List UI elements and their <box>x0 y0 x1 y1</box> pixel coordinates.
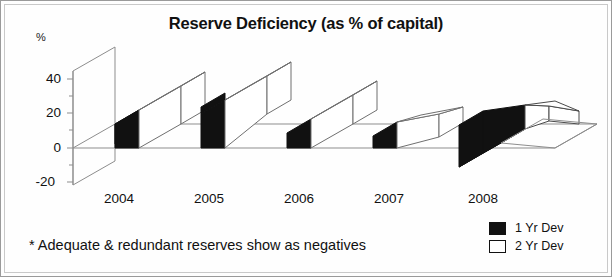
bar-2006-2yr-dev <box>311 81 377 148</box>
y-axis-label-0: 0 <box>27 140 61 155</box>
legend-label-1yr-dev: 1 Yr Dev <box>515 221 563 235</box>
bar-group-2008 <box>459 101 597 167</box>
x-axis-label-2004: 2004 <box>89 191 149 206</box>
chart-frame: Reserve Deficiency (as % of capital) % <box>0 0 612 277</box>
bar-group-2007 <box>373 107 463 148</box>
legend-label-2yr-dev: 2 Yr Dev <box>515 239 563 253</box>
chart-footnote: * Adequate & redundant reserves show as … <box>29 237 366 253</box>
legend-item-1yr-dev: 1 Yr Dev <box>489 219 563 237</box>
bar-2007-1yr-dev <box>373 122 397 148</box>
chart-legend: 1 Yr Dev 2 Yr Dev <box>489 219 563 255</box>
legend-swatch-2yr-dev <box>489 240 506 253</box>
y-axis-label-40: 40 <box>27 71 61 86</box>
x-axis-label-2006: 2006 <box>269 191 329 206</box>
bar-2005-2yr-dev <box>225 62 291 148</box>
y-axis-label-minus20: -20 <box>21 174 55 189</box>
x-axis-label-2008: 2008 <box>453 191 513 206</box>
bar-2004-1yr-dev <box>115 110 139 182</box>
bar-group-2006 <box>287 81 377 148</box>
bar-2007-2yr-dev <box>397 107 463 148</box>
bar-2006-1yr-dev <box>287 119 311 148</box>
x-axis-label-2005: 2005 <box>179 191 239 206</box>
bar-2004-2yr-dev <box>139 72 205 148</box>
legend-swatch-1yr-dev <box>489 222 506 235</box>
bar-group-2004 <box>115 72 205 182</box>
y-axis-label-20: 20 <box>27 105 61 120</box>
x-axis-label-2007: 2007 <box>359 191 419 206</box>
legend-item-2yr-dev: 2 Yr Dev <box>489 237 563 255</box>
back-wall-left <box>73 47 115 185</box>
bar-group-2005 <box>201 62 291 148</box>
bar-2008-1yr-dev <box>459 105 525 167</box>
